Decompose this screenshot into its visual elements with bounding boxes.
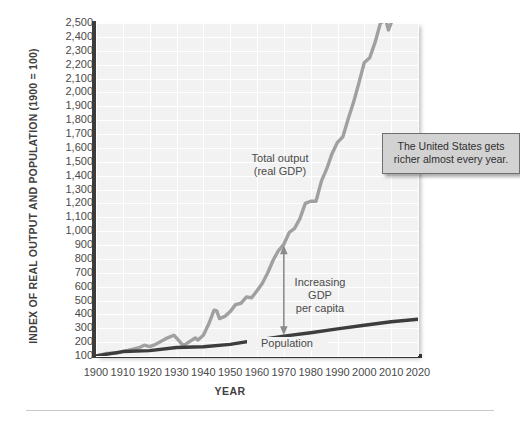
y-axis-tick-label: 200	[75, 336, 93, 347]
x-axis-tick-label: 2020	[398, 366, 438, 378]
annotation-total-output: Total output (real GDP)	[225, 152, 335, 178]
y-axis-tick-label: 1,700	[65, 128, 93, 139]
chart-figure: INDEX OF REAL OUTPUT AND POPULATION (190…	[0, 0, 520, 425]
y-axis-tick-label: 800	[75, 253, 93, 264]
y-axis-tick-labels: 2,5002,4002,3002,2002,1002,0001,9001,800…	[38, 0, 93, 425]
y-axis-tick-label: 300	[75, 322, 93, 333]
y-axis-tick-label: 2,500	[65, 17, 93, 28]
y-axis-tick-label: 1,400	[65, 170, 93, 181]
y-axis-tick-label: 2,300	[65, 45, 93, 56]
y-axis-tick-label: 2,200	[65, 59, 93, 70]
y-axis-tick-label: 100	[75, 350, 93, 361]
annotation-gdp-per-capita: Increasing GDP per capita	[280, 276, 360, 315]
gridline-horizontal	[96, 356, 418, 357]
y-axis-tick-label: 1,600	[65, 142, 93, 153]
y-axis-tick-label: 1,200	[65, 197, 93, 208]
gdp-line	[96, 23, 418, 356]
y-axis-tick-label: 1,000	[65, 225, 93, 236]
gridline-vertical	[418, 23, 419, 356]
x-axis-tick-labels: 1900191019201930194019501960197019801990…	[0, 366, 520, 382]
plot-area: Total output (real GDP) Increasing GDP p…	[96, 23, 418, 356]
y-axis-tick-label: 2,400	[65, 31, 93, 42]
footer-rule	[26, 410, 494, 411]
callout-box: The United States gets richer almost eve…	[382, 133, 520, 174]
y-axis-tick-label: 600	[75, 281, 93, 292]
y-axis-tick-label: 700	[75, 267, 93, 278]
x-axis-title: YEAR	[0, 385, 460, 397]
y-axis-tick-label: 1,800	[65, 114, 93, 125]
y-axis-tick-label: 500	[75, 295, 93, 306]
y-axis-tick-label: 1,500	[65, 156, 93, 167]
y-axis-tick-label: 2,100	[65, 73, 93, 84]
y-axis-tick-label: 1,100	[65, 211, 93, 222]
y-axis-tick-label: 2,000	[65, 86, 93, 97]
y-axis-tick-label: 900	[75, 239, 93, 250]
y-axis-tick-label: 1,900	[65, 100, 93, 111]
y-axis-tick-label: 400	[75, 308, 93, 319]
annotation-population: Population	[247, 337, 327, 350]
y-axis-tick-label: 1,300	[65, 184, 93, 195]
data-series-layer	[96, 23, 418, 356]
